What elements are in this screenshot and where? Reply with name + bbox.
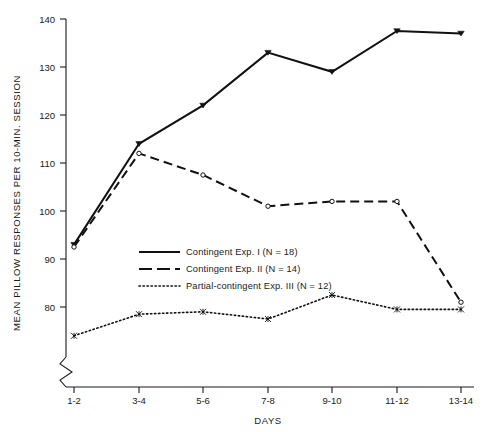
x-tick-label: 11-12 xyxy=(385,395,409,406)
y-tick-label: 110 xyxy=(40,158,55,169)
x-tick-label: 7-8 xyxy=(261,395,275,406)
data-point xyxy=(395,199,399,203)
data-point xyxy=(200,309,206,315)
y-tick-label: 90 xyxy=(44,254,55,265)
legend-label: Partial-contingent Exp. III (N = 12) xyxy=(186,281,332,291)
chart-figure: 140 130 120 110 100 90 80 1-2 3-4 5-6 7-… xyxy=(0,0,487,432)
y-axis-break-icon xyxy=(60,357,72,387)
x-axis-tick-labels: 1-2 3-4 5-6 7-8 9-10 11-12 13-14 xyxy=(67,395,473,406)
y-axis-title: MEAN PILLOW RESPONSES PER 10-MIN. SESSIO… xyxy=(11,75,22,331)
series-line-2 xyxy=(74,153,461,302)
legend-label: Contingent Exp. II (N = 14) xyxy=(186,264,300,274)
x-axis-ticks xyxy=(74,387,461,393)
line-chart: 140 130 120 110 100 90 80 1-2 3-4 5-6 7-… xyxy=(0,0,487,432)
data-point xyxy=(394,306,400,312)
data-point xyxy=(136,311,142,317)
series-layer xyxy=(71,29,464,339)
data-point xyxy=(201,173,205,177)
data-point xyxy=(266,204,270,208)
data-point xyxy=(459,300,463,304)
y-tick-label: 140 xyxy=(39,14,55,25)
x-tick-label: 5-6 xyxy=(196,395,210,406)
legend-label: Contingent Exp. I (N = 18) xyxy=(186,247,298,257)
data-point xyxy=(330,199,334,203)
data-point xyxy=(458,306,464,312)
y-tick-label: 120 xyxy=(39,110,55,121)
x-tick-label: 13-14 xyxy=(449,395,473,406)
y-axis-ticks xyxy=(60,19,66,307)
y-tick-label: 100 xyxy=(39,206,55,217)
y-tick-label: 130 xyxy=(39,62,55,73)
chart-legend: Contingent Exp. I (N = 18) Contingent Ex… xyxy=(139,247,332,291)
x-tick-label: 9-10 xyxy=(322,395,341,406)
data-point xyxy=(72,245,76,249)
series-line-3 xyxy=(74,295,461,336)
data-point xyxy=(137,151,141,155)
y-tick-label: 80 xyxy=(44,302,55,313)
y-axis-tick-labels: 140 130 120 110 100 90 80 xyxy=(39,14,55,313)
data-point xyxy=(71,333,77,339)
x-axis-title: DAYS xyxy=(254,415,282,426)
x-tick-label: 1-2 xyxy=(67,395,81,406)
x-tick-label: 3-4 xyxy=(132,395,146,406)
